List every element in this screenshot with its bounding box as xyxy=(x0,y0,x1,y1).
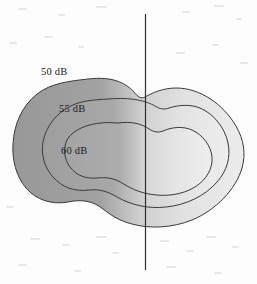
contour-label-50db: 50 dB xyxy=(41,67,67,78)
contour-plot-svg xyxy=(0,0,257,284)
contour-label-60db: 60 dB xyxy=(61,146,87,157)
contour-figure: 50 dB 55 dB 60 dB xyxy=(0,0,257,284)
contour-label-55db: 55 dB xyxy=(59,104,85,115)
